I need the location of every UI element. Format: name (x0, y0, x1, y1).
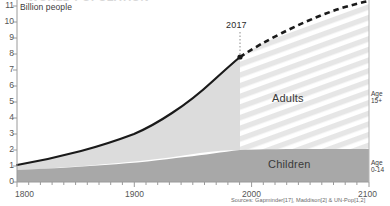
age-group-adults-line1: Age (371, 90, 383, 97)
annotation-year-2017: 2017 (226, 20, 247, 30)
source-note: Sources: Gapminder[17], Maddison[2] & UN… (231, 197, 365, 203)
x-axis-tick-labels: 1800 1900 2000 2100 (0, 0, 390, 206)
age-group-children: Age 0-14 (371, 159, 384, 174)
world-population-chart: WORLD POPULATION Billion people (0, 0, 390, 206)
series-label-adults: Adults (272, 92, 304, 104)
age-group-children-line1: Age (371, 159, 383, 166)
series-label-children: Children (268, 158, 311, 170)
age-group-adults: Age 15+ (371, 90, 383, 105)
x-tick-1900: 1900 (125, 190, 144, 199)
x-tick-1800: 1800 (15, 190, 34, 199)
age-group-children-line2: 0-14 (371, 166, 384, 173)
age-group-adults-line2: 15+ (371, 97, 382, 104)
